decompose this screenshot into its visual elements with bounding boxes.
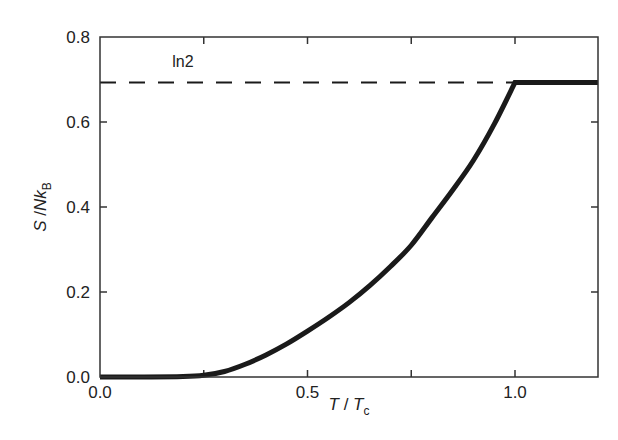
y-tick-label: 0.0 [66,368,90,387]
x-tick-label: 1.0 [503,383,527,402]
x-label-subscript: c [363,404,369,418]
y-tick-label: 0.2 [66,283,90,302]
series-layer [100,82,598,377]
ticks-layer [100,37,598,377]
x-label-sep: / [339,395,353,414]
x-tick-label: 0.0 [88,383,112,402]
y-label-numerator: S [31,220,50,232]
y-tick-label: 0.4 [66,198,90,217]
entropy-curve [100,82,598,377]
y-label-denominator: Nk [31,189,50,211]
tick-labels-layer: 0.00.51.00.00.20.40.60.8 [66,28,526,402]
x-axis-label: T / Tc [329,395,370,418]
plot-frame [100,37,598,377]
ln2-annotation: ln2 [172,53,193,70]
x-tick-label: 0.5 [296,383,320,402]
y-label-subscript: B [40,182,54,190]
y-axis-label: S /NkB [31,182,54,232]
y-tick-label: 0.8 [66,28,90,47]
entropy-chart: 0.00.51.00.00.20.40.60.8 ln2 T / Tc S /N… [0,0,618,440]
y-label-sep: / [31,211,50,221]
y-tick-label: 0.6 [66,113,90,132]
